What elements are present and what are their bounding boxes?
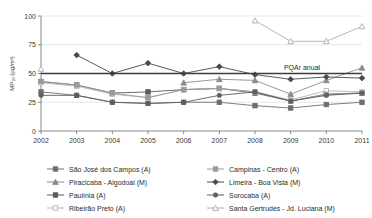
data-point-marker (110, 100, 114, 104)
data-point-marker (217, 64, 223, 70)
data-point-marker (324, 74, 330, 80)
data-point-marker (253, 104, 257, 108)
legend-item-3[interactable]: Limeira - Boa Vista (M) (207, 179, 300, 187)
x-tick-label-2005: 2005 (140, 137, 156, 144)
data-point-marker (252, 18, 258, 23)
y-tick-label-25: 25 (28, 99, 36, 106)
data-point-marker (360, 91, 364, 95)
legend-item-label: Santa Gertrudes - Jd. Luciana (M) (229, 205, 335, 213)
data-point-marker (53, 206, 57, 210)
data-point-marker (38, 66, 44, 71)
data-point-marker (288, 76, 294, 82)
y-tick-label-75: 75 (28, 41, 36, 48)
legend-item-0[interactable]: São José dos Campos (A) (47, 166, 151, 174)
data-point-marker (288, 106, 292, 110)
x-tick-label-2010: 2010 (319, 137, 335, 144)
y-tick-label-50: 50 (28, 70, 36, 77)
data-point-marker (359, 65, 365, 70)
data-point-marker (110, 91, 114, 95)
x-tick-label-2008: 2008 (247, 137, 263, 144)
data-point-marker (146, 95, 150, 99)
data-point-marker (74, 93, 78, 97)
legend-item-label: Campinas - Centro (A) (229, 166, 299, 174)
threshold-label: PQAr anual (284, 64, 321, 72)
line-chart: 0255075100200220032004200520062007200820… (0, 0, 372, 218)
x-tick-label-2011: 2011 (354, 137, 369, 144)
series-6 (39, 90, 364, 106)
data-point-marker (359, 75, 365, 81)
series-1 (181, 65, 365, 97)
series-line (184, 68, 362, 94)
data-point-marker (217, 100, 221, 104)
data-point-marker (324, 102, 328, 106)
legend-item-label: São José dos Campos (A) (69, 166, 151, 174)
series-4 (39, 79, 364, 103)
series-2 (39, 79, 364, 103)
data-point-marker (360, 100, 364, 104)
legend-item-2[interactable]: Piracicaba - Algodoal (M) (47, 179, 147, 187)
chart-container: 0255075100200220032004200520062007200820… (0, 0, 372, 218)
legend-item-label: Paulínia (A) (69, 192, 106, 200)
legend-item-label: Limeira - Boa Vista (M) (229, 179, 300, 187)
data-point-marker (53, 193, 57, 197)
legend-item-4[interactable]: Paulínia (A) (47, 192, 106, 200)
data-point-marker (181, 87, 185, 91)
legend-item-label: Piracicaba - Algodoal (M) (69, 179, 147, 187)
data-point-marker (145, 60, 151, 66)
x-tick-label-2003: 2003 (69, 137, 85, 144)
legend-item-7[interactable]: Santa Gertrudes - Jd. Luciana (M) (207, 205, 335, 213)
x-tick-label-2006: 2006 (176, 137, 192, 144)
data-point-marker (74, 83, 78, 87)
data-point-marker (39, 79, 43, 83)
x-tick-label-2007: 2007 (212, 137, 228, 144)
legend-item-label: Ribeirão Preto (A) (69, 205, 125, 213)
data-point-marker (288, 91, 294, 96)
data-point-marker (213, 193, 217, 197)
data-point-marker (253, 90, 257, 94)
x-tick-label-2004: 2004 (105, 137, 121, 144)
legend-item-5[interactable]: Sorocaba (A) (207, 192, 270, 200)
x-tick-label-2002: 2002 (33, 137, 49, 144)
data-point-marker (213, 179, 219, 185)
data-point-marker (146, 101, 150, 105)
data-point-marker (359, 24, 365, 29)
data-point-marker (213, 167, 217, 171)
legend-item-6[interactable]: Ribeirão Preto (A) (47, 205, 125, 213)
legend-item-1[interactable]: Campinas - Centro (A) (207, 166, 299, 174)
data-point-marker (39, 93, 43, 97)
data-point-marker (217, 86, 221, 90)
x-tick-label-2009: 2009 (283, 137, 299, 144)
data-point-marker (146, 90, 150, 94)
series-line (255, 21, 362, 42)
data-point-marker (324, 93, 328, 97)
y-tick-label-0: 0 (32, 128, 36, 135)
data-point-marker (252, 72, 258, 78)
data-point-marker (217, 93, 221, 97)
data-point-marker (288, 99, 292, 103)
data-point-marker (74, 52, 80, 58)
y-axis-title: MP₁₀ (µg/m³) (9, 56, 15, 91)
data-point-marker (53, 167, 57, 171)
legend-item-label: Sorocaba (A) (229, 192, 270, 200)
y-tick-label-100: 100 (24, 13, 36, 20)
data-point-marker (181, 100, 185, 104)
series-0 (39, 90, 364, 111)
